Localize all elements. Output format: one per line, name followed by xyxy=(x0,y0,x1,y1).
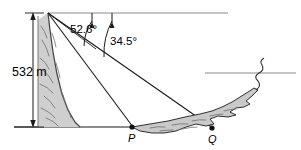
diagram-container: 532 m 52.6° 34.5° P Q xyxy=(0,0,301,150)
point-label-q: Q xyxy=(208,133,217,145)
height-label: 532 m xyxy=(12,65,47,79)
point-label-p: P xyxy=(128,132,136,144)
diagram-canvas: 532 m 52.6° 34.5° P Q xyxy=(0,0,301,150)
angle-label-near: 52.6° xyxy=(70,23,97,35)
river-shape xyxy=(132,88,258,133)
angle-label-far: 34.5° xyxy=(110,35,137,47)
river-tail-squiggle xyxy=(256,58,264,90)
point-marker-q xyxy=(209,125,214,130)
point-marker-p xyxy=(129,124,134,129)
